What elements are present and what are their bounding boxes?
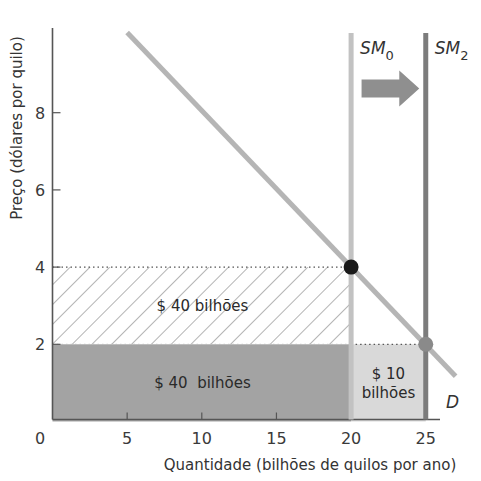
- equilibrium-2-point: [418, 337, 433, 352]
- y-tick-label: 4: [35, 258, 45, 277]
- y-axis-title: Preço (dólares por quilo): [8, 36, 26, 220]
- sm0-label-main: SM: [360, 38, 386, 58]
- sm2-label-sub: 2: [460, 48, 468, 63]
- y-tick-label: 8: [35, 104, 45, 123]
- x-tick-label: 15: [266, 429, 286, 448]
- dark-revenue-label: $ 40 bilhões: [154, 374, 251, 392]
- sm2-label: SM2: [435, 38, 469, 63]
- demand-label: D: [446, 392, 459, 412]
- light-revenue-label-line: $ 10: [372, 365, 405, 383]
- y-tick-label: 6: [35, 181, 45, 200]
- x-tick-label: 5: [122, 429, 132, 448]
- x-tick-label: 0: [35, 429, 45, 448]
- x-tick-label: 20: [341, 429, 361, 448]
- light-revenue-label-line: bilhões: [362, 384, 416, 402]
- sm2-label-main: SM: [435, 38, 461, 58]
- sm0-label-sub: 0: [386, 48, 394, 63]
- x-tick-label: 10: [192, 429, 212, 448]
- equilibrium-0-point: [344, 260, 359, 275]
- hatched-revenue-label: $ 40 bilhões: [157, 297, 249, 315]
- y-tick-label: 2: [35, 335, 45, 354]
- chart: $ 40 bilhões$ 40 bilhões$ 10bilhões05101…: [0, 0, 481, 481]
- shift-arrow: [362, 70, 420, 106]
- x-tick-label: 25: [416, 429, 436, 448]
- sm0-label: SM0: [360, 38, 394, 63]
- x-axis-title: Quantidade (bilhões de quilos por ano): [164, 456, 457, 474]
